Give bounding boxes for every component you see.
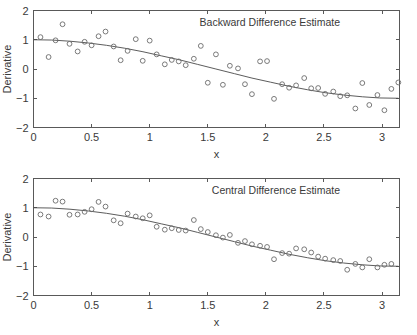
x-axis-title: x <box>214 148 220 160</box>
y-tick-label: −2 <box>16 122 29 134</box>
x-tick-label: 3 <box>379 299 385 311</box>
chart-svg-central-difference: 00.511.522.53−2−1012xDerivativeCentral D… <box>0 168 417 335</box>
data-point <box>345 267 350 272</box>
data-point <box>147 38 152 43</box>
panel-title: Backward Difference Estimate <box>200 16 341 28</box>
data-point <box>302 247 307 252</box>
data-point <box>162 227 167 232</box>
y-tick-label: 0 <box>22 63 28 75</box>
data-point <box>38 212 43 217</box>
data-point <box>309 250 314 255</box>
data-point <box>331 89 336 94</box>
x-tick-label: 1.5 <box>200 131 215 143</box>
data-point <box>396 80 401 85</box>
x-tick-label: 1 <box>147 299 153 311</box>
data-point <box>265 245 270 250</box>
x-tick-label: 0 <box>30 299 36 311</box>
data-point <box>243 82 248 87</box>
data-point <box>67 41 72 46</box>
x-tick-label: 3 <box>379 131 385 143</box>
data-point <box>353 106 358 111</box>
x-tick-label: 0 <box>30 131 36 143</box>
data-point <box>316 86 321 91</box>
chart-panel-central-difference: 00.511.522.53−2−1012xDerivativeCentral D… <box>0 168 417 335</box>
data-point <box>133 37 138 42</box>
data-point <box>162 62 167 67</box>
x-tick-label: 1 <box>147 131 153 143</box>
data-point <box>82 39 87 44</box>
data-point <box>250 92 255 97</box>
data-point <box>46 214 51 219</box>
chart-svg-backward-difference: 00.511.522.53−2−1012xDerivativeBackward … <box>0 0 417 167</box>
data-point <box>118 221 123 226</box>
data-point <box>272 257 277 262</box>
data-point <box>236 66 241 71</box>
x-tick-label: 2.5 <box>316 131 331 143</box>
data-point <box>367 103 372 108</box>
data-point <box>198 227 203 232</box>
data-point <box>191 56 196 61</box>
data-point <box>323 91 328 96</box>
data-point <box>118 58 123 63</box>
data-point <box>147 213 152 218</box>
data-point <box>183 63 188 68</box>
y-tick-label: −1 <box>16 260 29 272</box>
x-tick-label: 0.5 <box>84 299 99 311</box>
data-point <box>389 86 394 91</box>
data-point <box>265 59 270 64</box>
x-tick-label: 2.5 <box>316 299 331 311</box>
data-point <box>220 82 225 87</box>
data-point <box>214 52 219 57</box>
data-point <box>96 34 101 39</box>
y-tick-label: 2 <box>22 173 28 185</box>
x-tick-label: 2 <box>263 131 269 143</box>
data-point <box>294 83 299 88</box>
data-point <box>375 93 380 98</box>
data-point <box>316 254 321 259</box>
data-point <box>302 76 307 81</box>
data-point <box>67 212 72 217</box>
data-point <box>125 211 130 216</box>
data-point <box>176 228 181 233</box>
fit-curve <box>34 40 399 99</box>
data-point <box>227 233 232 238</box>
data-point <box>60 22 65 27</box>
data-point <box>96 200 101 205</box>
data-point <box>75 212 80 217</box>
data-point <box>60 199 65 204</box>
y-tick-label: −1 <box>16 92 29 104</box>
panel-title: Central Difference Estimate <box>212 184 340 196</box>
y-tick-label: 2 <box>22 5 28 17</box>
data-point <box>183 228 188 233</box>
y-tick-label: 0 <box>22 231 28 243</box>
data-point <box>198 43 203 48</box>
chart-panel-backward-difference: 00.511.522.53−2−1012xDerivativeBackward … <box>0 0 417 167</box>
data-point <box>382 108 387 113</box>
x-axis-title: x <box>214 316 220 328</box>
data-point-group <box>38 198 394 272</box>
data-point <box>89 207 94 212</box>
data-point <box>272 96 277 101</box>
fit-curve <box>34 208 399 267</box>
data-point <box>294 246 299 251</box>
data-point <box>75 49 80 54</box>
data-point <box>360 265 365 270</box>
data-point <box>53 198 58 203</box>
data-point <box>191 218 196 223</box>
data-point <box>140 58 145 63</box>
data-point <box>205 230 210 235</box>
data-point <box>46 55 51 60</box>
figure-canvas: 00.511.522.53−2−1012xDerivativeBackward … <box>0 0 417 335</box>
y-axis-title: Derivative <box>1 213 13 262</box>
data-point <box>111 218 116 223</box>
data-point <box>367 257 372 262</box>
y-tick-label: 1 <box>22 34 28 46</box>
data-point <box>258 59 263 64</box>
data-point-group <box>38 22 401 113</box>
data-point <box>243 239 248 244</box>
x-tick-label: 2 <box>263 299 269 311</box>
data-point <box>220 235 225 240</box>
data-point <box>38 35 43 40</box>
data-point <box>205 80 210 85</box>
data-point <box>389 262 394 267</box>
